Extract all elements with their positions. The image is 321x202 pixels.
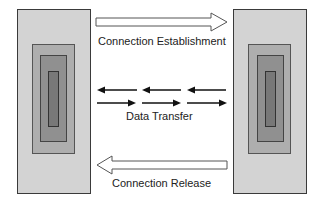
- arrows-layer: [0, 0, 321, 202]
- data-right-arrows-icon: [97, 100, 227, 107]
- data-transfer-label: Data Transfer: [126, 110, 193, 122]
- data-left-arrows-icon: [97, 87, 226, 94]
- release-arrow-icon: [97, 156, 227, 174]
- establishment-arrow-icon: [96, 13, 227, 31]
- establishment-label: Connection Establishment: [98, 35, 226, 47]
- release-label: Connection Release: [112, 177, 211, 189]
